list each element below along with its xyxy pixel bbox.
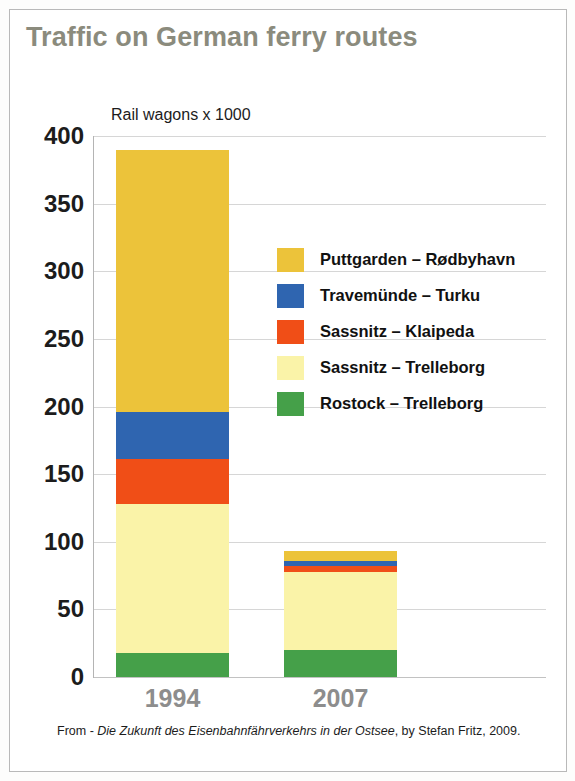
legend-item[interactable]: Rostock – Trelleborg <box>277 391 515 416</box>
legend-item-label: Sassnitz – Trelleborg <box>320 358 485 377</box>
bar-2007[interactable] <box>284 551 397 677</box>
citation-source-title: Die Zukunft des Eisenbahnfährverkehrs in… <box>97 724 394 738</box>
legend-item[interactable]: Sassnitz – Trelleborg <box>277 355 515 380</box>
legend-color-swatch <box>277 320 304 344</box>
legend-item[interactable]: Puttgarden – Rødbyhavn <box>277 247 515 272</box>
gridline-400 <box>94 136 546 137</box>
bar-1994[interactable] <box>116 150 229 677</box>
y-tick-label-300: 300 <box>44 259 84 283</box>
y-tick-label-400: 400 <box>44 124 84 148</box>
bar-segment[interactable] <box>116 459 229 504</box>
y-tick-label-0: 0 <box>71 665 84 689</box>
bar-segment[interactable] <box>116 653 229 677</box>
gridline-0 <box>94 677 546 678</box>
source-citation: From - Die Zukunft des Eisenbahnfährverk… <box>57 722 552 740</box>
y-tick-label-100: 100 <box>44 530 84 554</box>
legend-item[interactable]: Sassnitz – Klaipeda <box>277 319 515 344</box>
legend-color-swatch <box>277 356 304 380</box>
y-tick-label-50: 50 <box>57 597 84 621</box>
x-axis-label-2007: 2007 <box>284 684 397 713</box>
bar-segment[interactable] <box>284 551 397 560</box>
legend-item-label: Puttgarden – Rødbyhavn <box>320 250 515 269</box>
legend-item-label: Rostock – Trelleborg <box>320 394 483 413</box>
y-tick-label-200: 200 <box>44 395 84 419</box>
bar-segment[interactable] <box>284 566 397 571</box>
x-axis-label-1994: 1994 <box>116 684 229 713</box>
y-axis-tick-labels: 050100150200250300350400 <box>0 0 84 781</box>
page-title: Traffic on German ferry routes <box>26 22 418 53</box>
legend-color-swatch <box>277 248 304 272</box>
bar-segment[interactable] <box>284 572 397 650</box>
legend-color-swatch <box>277 284 304 308</box>
legend-color-swatch <box>277 392 304 416</box>
bar-segment[interactable] <box>116 412 229 459</box>
citation-prefix: From - <box>57 724 97 738</box>
y-tick-label-250: 250 <box>44 327 84 351</box>
legend-item-label: Sassnitz – Klaipeda <box>320 322 474 341</box>
legend-item-label: Travemünde – Turku <box>320 286 480 305</box>
chart-legend: Puttgarden – RødbyhavnTravemünde – Turku… <box>277 247 515 427</box>
citation-suffix: , by Stefan Fritz, 2009. <box>395 724 521 738</box>
y-axis-caption: Rail wagons x 1000 <box>111 106 251 124</box>
y-tick-label-150: 150 <box>44 462 84 486</box>
bar-segment[interactable] <box>284 650 397 677</box>
y-tick-label-350: 350 <box>44 192 84 216</box>
bar-segment[interactable] <box>116 504 229 653</box>
bar-segment[interactable] <box>116 150 229 412</box>
bar-segment[interactable] <box>284 561 397 566</box>
legend-item[interactable]: Travemünde – Turku <box>277 283 515 308</box>
slide-canvas: Traffic on German ferry routes Rail wago… <box>0 0 575 781</box>
